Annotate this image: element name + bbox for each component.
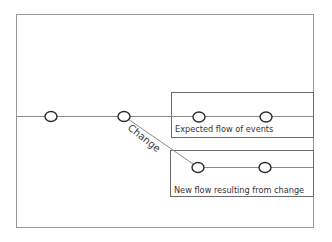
expected-flow-label: Expected flow of events [175, 124, 273, 134]
flow-diagram: Expected flow of events New flow resulti… [0, 0, 332, 242]
event-node-2-change-point [118, 112, 130, 122]
new-flow-node-1 [192, 163, 204, 173]
expected-node-2 [260, 112, 272, 122]
event-node-1 [45, 112, 57, 122]
expected-node-1 [193, 112, 205, 122]
new-flow-label: New flow resulting from change [174, 185, 304, 195]
change-label: Change [126, 122, 163, 154]
new-flow-node-2 [259, 163, 271, 173]
